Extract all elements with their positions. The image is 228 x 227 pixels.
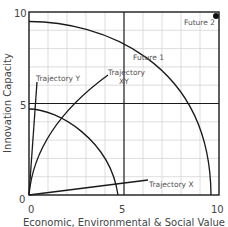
- y-tick-0: 0: [19, 194, 25, 205]
- y-axis-label: Innovation Capacity: [2, 53, 13, 153]
- label-trajectory-xy-2: XY: [119, 77, 129, 86]
- label-trajectory-xy-1: Trajectory: [107, 68, 146, 77]
- x-tick-10: 10: [211, 204, 224, 215]
- chart: Future 1 Future 2 Trajectory Y Trajector…: [0, 0, 228, 227]
- label-trajectory-y: Trajectory Y: [35, 74, 80, 83]
- trajectory-y-line: [29, 82, 37, 195]
- future1-arc: [29, 22, 211, 196]
- x-axis-label: Economic, Environmental & Social Value: [23, 217, 225, 227]
- trajectory-x-line: [29, 180, 148, 195]
- label-future2: Future 2: [184, 18, 215, 27]
- label-future1: Future 1: [133, 53, 164, 62]
- y-tick-5: 5: [20, 100, 26, 111]
- label-trajectory-x: Trajectory X: [148, 180, 194, 189]
- y-tick-10: 10: [14, 8, 27, 19]
- x-tick-5: 5: [119, 204, 125, 215]
- x-tick-0: 0: [28, 204, 34, 215]
